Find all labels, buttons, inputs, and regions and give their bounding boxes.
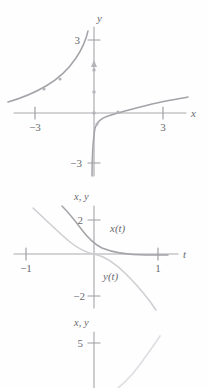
- middle-ytick-label-neg2: −2: [73, 290, 85, 302]
- top-yaxis-arrow-icon: [91, 60, 97, 67]
- middle-ttick-label-1: 1: [155, 262, 161, 274]
- bottom-ytick-label-5: 5: [78, 337, 84, 349]
- middle-curve-label-y: y(t): [102, 270, 119, 283]
- figure-root: y x 3 −3 −3 3 x, y t 2 −2: [0, 0, 209, 388]
- top-marker-dot: [95, 122, 98, 125]
- top-xtick-label-neg3: −3: [29, 121, 41, 133]
- middle-curve-label-x: x(t): [109, 222, 126, 235]
- middle-y-axis-label: x, y: [73, 191, 89, 202]
- top-y-axis-label: y: [96, 12, 102, 24]
- top-marker-dot: [42, 87, 45, 90]
- middle-t-axis-label: t: [183, 248, 187, 260]
- top-x-axis-label: x: [190, 107, 196, 119]
- top-curve-right-branch: [92, 97, 188, 176]
- top-xtick-label-3: 3: [160, 121, 166, 133]
- bottom-y-axis-label: x, y: [73, 317, 89, 328]
- chart-panel-top: y x 3 −3 −3 3: [0, 0, 209, 186]
- top-ytick-label-neg3: −3: [70, 157, 82, 169]
- middle-chart-svg: x, y t 2 −2 −1 1 x(t) y(t): [0, 186, 209, 314]
- bottom-curve-rising: [118, 336, 160, 388]
- chart-panel-middle: x, y t 2 −2 −1 1 x(t) y(t): [0, 186, 209, 314]
- top-origin-dot: [92, 111, 95, 114]
- top-marker-dot: [92, 90, 95, 93]
- top-chart-svg: y x 3 −3 −3 3: [0, 0, 209, 186]
- top-ytick-label-3: 3: [75, 34, 81, 46]
- top-marker-dot: [58, 77, 61, 80]
- bottom-chart-svg: x, y 5: [0, 314, 209, 388]
- top-marker-dot: [92, 68, 95, 71]
- chart-panel-bottom: x, y 5: [0, 314, 209, 388]
- middle-ttick-label-neg1: −1: [20, 262, 32, 274]
- top-marker-dot: [116, 110, 119, 113]
- middle-ytick-label-2: 2: [78, 214, 84, 226]
